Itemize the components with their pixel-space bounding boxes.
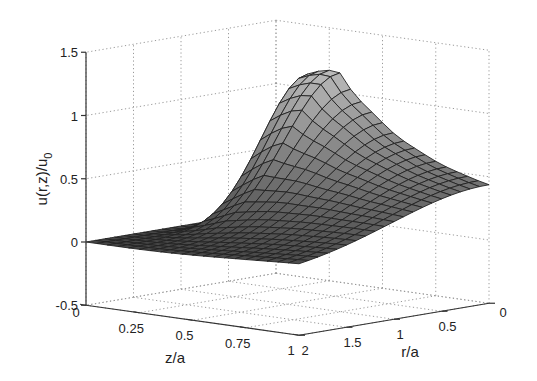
- x-tick-label: 0.75: [225, 336, 250, 351]
- surface-mesh: [86, 70, 489, 263]
- x-tick-label: 0.25: [119, 321, 144, 336]
- surface-plot: -0.500.511.500.250.50.75100.511.52 u(r,z…: [0, 0, 537, 381]
- y-tick-label: 0: [499, 305, 506, 320]
- x-tick-label: 1: [287, 343, 294, 358]
- x-tick-label: 0: [72, 305, 79, 320]
- y-tick-label: 1: [396, 327, 403, 342]
- y-tick-label: 0.5: [438, 319, 456, 334]
- z-tick-label: 0.5: [60, 172, 78, 187]
- z-tick-label: 1.5: [60, 45, 78, 60]
- y-tick-label: 1.5: [343, 335, 361, 350]
- z-tick-label: 0: [71, 235, 78, 250]
- y-axis-label: r/a: [401, 343, 419, 360]
- x-axis-label: z/a: [165, 349, 186, 366]
- z-axis-label: u(r,z)/u0: [33, 153, 54, 206]
- x-tick-label: 0.5: [175, 328, 193, 343]
- y-tick-label: 2: [301, 343, 308, 358]
- z-tick-label: 1: [71, 109, 78, 124]
